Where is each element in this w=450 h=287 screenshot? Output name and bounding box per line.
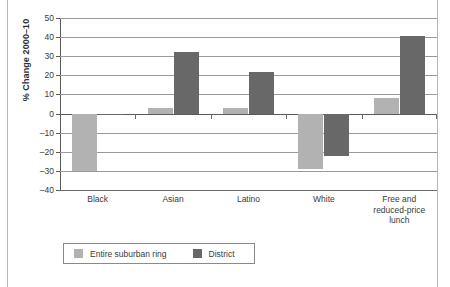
legend-label: Entire suburban ring xyxy=(90,249,167,259)
y-tick-label--30: –30 xyxy=(40,166,54,176)
y-tick-mark-50 xyxy=(56,18,60,19)
bar-free-and-reduced-price-lunch-district xyxy=(400,36,425,113)
bar-white-entire-suburban-ring xyxy=(298,114,323,169)
x-axis-label-line: Latino xyxy=(211,194,286,205)
x-axis-label-line: lunch xyxy=(362,215,437,226)
x-axis-label-line: reduced-price xyxy=(362,205,437,216)
x-axis-label-latino: Latino xyxy=(211,194,286,205)
category-tick-4 xyxy=(362,114,363,119)
x-axis-label-line: White xyxy=(286,194,361,205)
gridline-50 xyxy=(60,18,437,19)
y-tick-label-0: 0 xyxy=(49,109,54,119)
y-tick-mark-10 xyxy=(56,94,60,95)
gridline--10 xyxy=(60,133,437,134)
y-tick-mark--10 xyxy=(56,133,60,134)
x-axis-label-white: White xyxy=(286,194,361,205)
bar-black-entire-suburban-ring xyxy=(72,114,97,171)
plot-area: 50403020100–10–20–30–40 xyxy=(60,18,437,190)
bar-asian-district xyxy=(174,52,199,113)
gridline-40 xyxy=(60,37,437,38)
category-tick-3 xyxy=(286,114,287,119)
chart-legend: Entire suburban ringDistrict xyxy=(63,243,255,264)
y-tick-mark-30 xyxy=(56,56,60,57)
x-axis-label-line: Free and xyxy=(362,194,437,205)
gridline-30 xyxy=(60,56,437,57)
category-tick-end xyxy=(436,114,437,119)
y-tick-mark--40 xyxy=(56,190,60,191)
bar-latino-district xyxy=(249,72,274,113)
legend-item-entire-suburban-ring[interactable]: Entire suburban ring xyxy=(74,249,167,259)
bar-asian-entire-suburban-ring xyxy=(148,108,173,114)
gridline--30 xyxy=(60,171,437,172)
y-tick-label-50: 50 xyxy=(45,13,54,23)
category-tick-2 xyxy=(211,114,212,119)
gridline--20 xyxy=(60,152,437,153)
y-axis-title: % Change 2000–10 xyxy=(21,0,31,130)
y-tick-label-10: 10 xyxy=(45,89,54,99)
gridline--40 xyxy=(60,190,437,191)
y-tick-mark--30 xyxy=(56,171,60,172)
y-tick-label-30: 30 xyxy=(45,51,54,61)
bar-white-district xyxy=(324,114,349,156)
y-tick-mark--20 xyxy=(56,152,60,153)
y-tick-label-40: 40 xyxy=(45,32,54,42)
y-tick-label-20: 20 xyxy=(45,70,54,80)
y-tick-label--40: –40 xyxy=(40,185,54,195)
x-axis-label-line: Asian xyxy=(135,194,210,205)
bar-chart-figure: % Change 2000–10 50403020100–10–20–30–40… xyxy=(0,0,450,287)
legend-swatch-icon xyxy=(74,249,83,258)
bar-latino-entire-suburban-ring xyxy=(223,108,248,114)
legend-swatch-icon xyxy=(193,249,202,258)
category-tick-1 xyxy=(135,114,136,119)
bar-free-and-reduced-price-lunch-entire-suburban-ring xyxy=(374,98,399,113)
y-tick-mark-40 xyxy=(56,37,60,38)
legend-item-district[interactable]: District xyxy=(193,249,235,259)
bar-black-district xyxy=(98,114,123,116)
y-tick-mark-20 xyxy=(56,75,60,76)
legend-label: District xyxy=(209,249,235,259)
y-tick-label--10: –10 xyxy=(40,128,54,138)
y-tick-label--20: –20 xyxy=(40,147,54,157)
x-axis-label-asian: Asian xyxy=(135,194,210,205)
y-tick-mark-0 xyxy=(56,114,60,115)
x-axis-label-black: Black xyxy=(60,194,135,205)
x-axis-label-free-and-reduced-price-lunch: Free andreduced-pricelunch xyxy=(362,194,437,226)
x-axis-label-line: Black xyxy=(60,194,135,205)
